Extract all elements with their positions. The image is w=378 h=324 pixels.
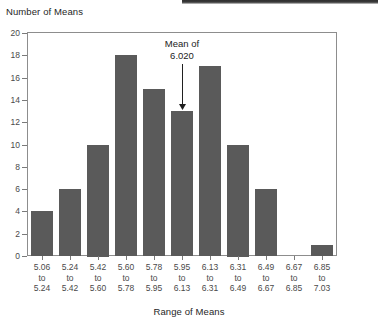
mean-annotation: Mean of6.020 [165, 38, 199, 62]
mean-annotation-line1: Mean of [165, 38, 199, 50]
x-axis-tick [294, 256, 295, 260]
histogram-bar [171, 111, 193, 256]
x-axis-tick [98, 256, 99, 260]
y-axis-tick-label: 6 [0, 184, 20, 194]
x-axis-tick-label: 6.49to6.67 [258, 262, 275, 294]
x-axis-tick [70, 256, 71, 260]
histogram-bar [227, 145, 249, 257]
x-axis-tick-label-line: 6.67 [258, 283, 275, 294]
y-axis-tick [22, 122, 27, 123]
y-axis-tick [22, 256, 27, 257]
histogram-bar [59, 189, 81, 256]
x-axis-tick-label-line: 6.67 [286, 262, 303, 273]
x-axis-tick-label-line: 7.03 [314, 283, 331, 294]
x-axis-tick [238, 256, 239, 260]
y-axis-tick [22, 55, 27, 56]
y-axis-tick-label: 4 [0, 206, 20, 216]
x-axis-tick-label-line: 5.24 [62, 262, 79, 273]
histogram-bar [199, 66, 221, 256]
x-axis-tick [182, 256, 183, 260]
y-axis-tick-label: 20 [0, 28, 20, 38]
y-axis-tick-label: 12 [0, 117, 20, 127]
x-axis-tick-label: 6.31to6.49 [230, 262, 247, 294]
x-axis-tick-label-line: 5.06 [34, 262, 51, 273]
x-axis-tick-label-line: to [34, 273, 51, 284]
x-axis-tick-label-line: 5.24 [34, 283, 51, 294]
y-axis-tick [22, 33, 27, 34]
x-axis-tick-label-line: to [314, 273, 331, 284]
x-axis-title: Range of Means [0, 306, 378, 317]
x-axis-tick-label-line: 6.49 [230, 283, 247, 294]
x-axis-tick-label-line: 5.42 [90, 262, 107, 273]
histogram-bar [255, 189, 277, 256]
x-axis-tick-label: 5.24to5.42 [62, 262, 79, 294]
y-axis-tick-label: 0 [0, 251, 20, 261]
y-axis-tick-label: 10 [0, 140, 20, 150]
histogram-bar [143, 89, 165, 256]
x-axis-tick [154, 256, 155, 260]
x-axis-tick-label: 5.42to5.60 [90, 262, 107, 294]
histogram-bar [115, 55, 137, 256]
x-axis-tick-label-line: to [146, 273, 163, 284]
x-axis-tick-label: 5.95to6.13 [174, 262, 191, 294]
histogram-bar [31, 211, 53, 256]
x-axis-tick-label-line: to [230, 273, 247, 284]
x-axis-tick-label-line: to [202, 273, 219, 284]
x-axis-tick-label-line: to [174, 273, 191, 284]
y-axis-tick [22, 211, 27, 212]
y-axis-tick [22, 167, 27, 168]
x-axis-tick-label-line: to [286, 273, 303, 284]
y-axis-tick [22, 189, 27, 190]
x-axis-tick [322, 256, 323, 260]
x-axis-tick [126, 256, 127, 260]
x-axis-tick-label-line: 6.85 [286, 283, 303, 294]
x-axis-tick-label-line: 6.31 [230, 262, 247, 273]
y-axis-tick [22, 234, 27, 235]
x-axis-tick-label-line: 5.42 [62, 283, 79, 294]
x-axis-tick-label-line: 5.60 [90, 283, 107, 294]
x-axis-tick-label-line: 6.85 [314, 262, 331, 273]
x-axis-tick-label-line: 6.49 [258, 262, 275, 273]
x-axis-tick-label-line: 6.13 [202, 262, 219, 273]
x-axis-tick [210, 256, 211, 260]
y-axis-tick [22, 145, 27, 146]
y-axis-tick-label: 16 [0, 73, 20, 83]
x-axis-tick-label-line: 5.95 [174, 262, 191, 273]
mean-arrow-icon [178, 64, 187, 110]
x-axis-tick-label: 5.60to5.78 [118, 262, 135, 294]
y-axis-tick-label: 18 [0, 50, 20, 60]
histogram-bar [311, 245, 333, 256]
x-axis-tick-label-line: 6.13 [174, 283, 191, 294]
scan-edge-artifact [182, 0, 378, 4]
y-axis-tick-label: 2 [0, 229, 20, 239]
x-axis-tick-label: 6.67to6.85 [286, 262, 303, 294]
x-axis-tick [42, 256, 43, 260]
y-axis-tick-label: 8 [0, 162, 20, 172]
y-axis-tick-label: 14 [0, 95, 20, 105]
x-axis-tick-label: 6.85to7.03 [314, 262, 331, 294]
y-axis-tick [22, 100, 27, 101]
y-axis-labels: 02468101214161820 [0, 0, 20, 324]
mean-annotation-line2: 6.020 [165, 50, 199, 62]
x-axis-tick-label: 5.78to5.95 [146, 262, 163, 294]
y-axis-tick [22, 78, 27, 79]
x-axis-tick-label-line: 5.78 [146, 262, 163, 273]
x-axis-tick-label-line: to [258, 273, 275, 284]
x-axis-tick-label-line: to [90, 273, 107, 284]
x-axis-tick-label-line: to [62, 273, 79, 284]
x-axis-tick-label-line: 5.60 [118, 262, 135, 273]
histogram-bar [87, 145, 109, 257]
x-axis-tick-label-line: 5.78 [118, 283, 135, 294]
x-axis-tick-label-line: to [118, 273, 135, 284]
x-axis-tick-label-line: 6.31 [202, 283, 219, 294]
x-axis-tick-label-line: 5.95 [146, 283, 163, 294]
x-axis-tick [266, 256, 267, 260]
x-axis-tick-label: 6.13to6.31 [202, 262, 219, 294]
x-axis-tick-label: 5.06to5.24 [34, 262, 51, 294]
